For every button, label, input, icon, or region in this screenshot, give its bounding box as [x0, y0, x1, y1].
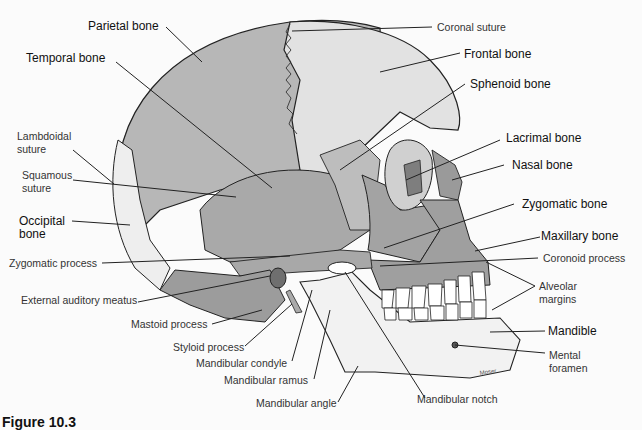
artist-signature: Moser	[479, 368, 496, 376]
label-alveolar-margins-line2: margins	[539, 293, 576, 305]
styloid-process-shape	[286, 290, 302, 313]
label-external-auditory-meatus: External auditory meatus	[21, 294, 137, 306]
label-lambdoidal-suture-line1: Lambdoidal	[17, 130, 71, 142]
nasal-bone-shape	[432, 150, 462, 200]
label-frontal-bone: Frontal bone	[464, 47, 531, 61]
mastoid-process-shape	[160, 270, 285, 322]
label-parietal-bone: Parietal bone	[88, 19, 159, 33]
mandibular-condyle-shape	[328, 262, 356, 274]
label-lambdoidal-suture-line2: suture	[17, 143, 46, 155]
label-occipital-bone-line2: bone	[19, 227, 46, 241]
label-mandibular-notch: Mandibular notch	[417, 393, 498, 405]
label-lacrimal-bone: Lacrimal bone	[506, 131, 581, 145]
label-mandibular-ramus: Mandibular ramus	[224, 374, 308, 386]
label-mandibular-condyle: Mandibular condyle	[196, 357, 287, 369]
label-occipital-bone-line1: Occipital	[19, 214, 65, 228]
label-mastoid-process: Mastoid process	[131, 318, 207, 330]
label-zygomatic-process: Zygomatic process	[9, 257, 97, 269]
label-zygomatic-bone: Zygomatic bone	[522, 197, 607, 211]
label-squamous-suture-line1: Squamous	[22, 169, 72, 181]
label-styloid-process: Styloid process	[173, 341, 244, 353]
figure-caption: Figure 10.3	[2, 414, 76, 430]
external-auditory-meatus-shape	[270, 268, 286, 288]
label-coronoid-process: Coronoid process	[543, 252, 625, 264]
label-maxillary-bone: Maxillary bone	[541, 229, 618, 243]
label-mandibular-angle: Mandibular angle	[256, 397, 337, 409]
label-sphenoid-bone: Sphenoid bone	[470, 77, 551, 91]
label-mental-foramen-line2: foramen	[549, 362, 588, 374]
label-squamous-suture-line2: suture	[22, 182, 51, 194]
label-mental-foramen-line1: Mental	[549, 349, 581, 361]
label-coronal-suture: Coronal suture	[437, 21, 506, 33]
label-temporal-bone: Temporal bone	[26, 51, 105, 65]
label-alveolar-margins-line1: Alveolar	[539, 280, 577, 292]
label-nasal-bone: Nasal bone	[512, 158, 573, 172]
label-mandible: Mandible	[548, 324, 597, 338]
